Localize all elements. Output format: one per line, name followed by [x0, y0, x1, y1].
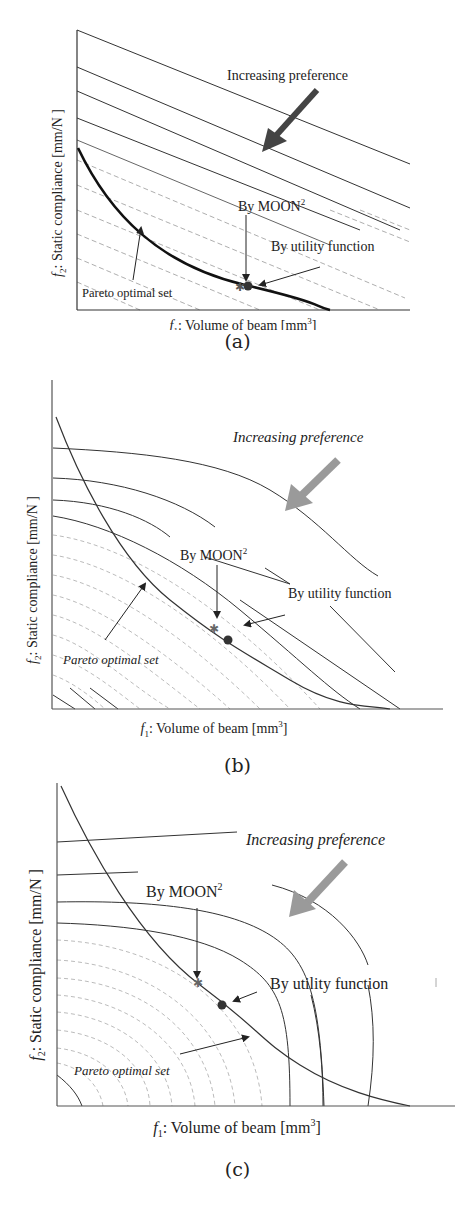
- panel-a: ✱ Increasing preference By MOON2 By util…: [0, 0, 475, 355]
- y-axis-label: f2: Static compliance [mm/N ]: [27, 869, 47, 1061]
- moon-point-star-icon: ✱: [193, 976, 203, 990]
- label-utility-function: By utility function: [288, 586, 391, 601]
- panel-c: ✱ Increasing preference By MOON2 By util…: [0, 780, 475, 1205]
- label-moon: By MOON2: [146, 881, 223, 901]
- x-axis-label: f1: Volume of beam [mm3]: [153, 1117, 321, 1139]
- utility-pointer: [234, 992, 257, 1001]
- utility-point-circle-icon: [218, 1001, 227, 1010]
- label-moon: By MOON2: [180, 546, 247, 563]
- x-axis-label: f1: Volume of beam [mm3]: [170, 316, 317, 330]
- caption-b: (b): [0, 754, 475, 776]
- label-utility-function: By utility function: [271, 239, 374, 254]
- caption-a: (a): [0, 330, 475, 352]
- label-increasing-preference: Increasing preference: [227, 68, 348, 83]
- chart-b: ✱ Increasing preference By MOON2 By util…: [0, 370, 475, 755]
- label-increasing-preference: Increasing preference: [232, 429, 364, 445]
- moon-point-star-icon: ✱: [235, 280, 245, 294]
- utility-contours: [53, 448, 400, 709]
- utility-point-circle-icon: [244, 282, 253, 291]
- chart-a: ✱ Increasing preference By MOON2 By util…: [0, 0, 475, 330]
- utility-contours-dashed: [57, 940, 262, 1106]
- label-increasing-preference: Increasing preference: [245, 831, 385, 849]
- moon-point-star-icon: ✱: [209, 622, 219, 636]
- y-axis-label: f2: Static compliance [mm/N ]: [25, 496, 43, 664]
- increasing-preference-arrow-icon: [262, 90, 317, 152]
- label-moon: By MOON2: [238, 197, 305, 214]
- increasing-preference-arrow-icon: [285, 460, 338, 511]
- chart-c: ✱ Increasing preference By MOON2 By util…: [0, 780, 475, 1160]
- y-axis-label: f2: Static compliance [mm/N ]: [50, 109, 68, 277]
- increasing-preference-arrow-icon: [289, 862, 345, 917]
- caption-c: (c): [0, 1158, 475, 1180]
- utility-pointer: [260, 267, 320, 285]
- panel-b: ✱ Increasing preference By MOON2 By util…: [0, 370, 475, 780]
- pareto-pointer: [180, 1037, 248, 1054]
- label-pareto-optimal-set: Pareto optimal set: [73, 1063, 170, 1078]
- utility-point-circle-icon: [224, 636, 233, 645]
- x-axis-label: f1: Volume of beam [mm3]: [141, 719, 288, 739]
- label-pareto-optimal-set: Pareto optimal set: [62, 652, 159, 667]
- label-utility-function: By utility function: [270, 975, 388, 993]
- pareto-pointer: [133, 228, 141, 280]
- label-pareto-optimal-set: Pareto optimal set: [82, 286, 173, 300]
